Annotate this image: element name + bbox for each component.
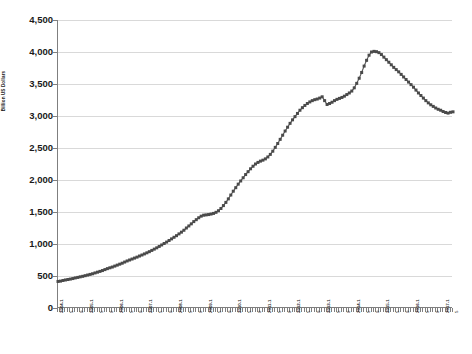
x-tick-label: 2011-1 <box>267 300 272 313</box>
data-point-marker <box>279 138 282 141</box>
y-tick-label: 2,500 <box>3 143 53 153</box>
x-tick-mark <box>205 308 206 312</box>
data-point-marker <box>422 97 425 100</box>
x-tick-label: 2016-1 <box>415 299 420 313</box>
data-point-marker <box>365 59 368 62</box>
x-tick-mark <box>274 308 275 312</box>
data-point-marker <box>402 75 405 78</box>
x-tick-label: 2013-1 <box>326 299 331 313</box>
x-tick-mark <box>166 308 167 312</box>
y-tick-label: 500 <box>3 271 53 281</box>
x-tick-label: 2010-1 <box>237 299 242 313</box>
x-tick-label: 5 <box>306 311 311 313</box>
x-tick-mark <box>264 308 265 312</box>
x-tick-mark <box>232 308 233 312</box>
x-tick-mark <box>77 308 78 312</box>
data-point-marker <box>244 173 247 176</box>
y-tick-label: 1,000 <box>3 239 53 249</box>
x-tick-mark <box>235 308 236 312</box>
x-tick-label: 2007-1 <box>148 299 153 313</box>
data-point-marker <box>242 176 245 179</box>
x-axis-ticks: 2004-1592005-1592006-1592007-1592008-159… <box>57 308 453 354</box>
data-series <box>58 20 453 308</box>
x-tick-mark <box>304 308 305 312</box>
x-tick-mark <box>104 308 105 312</box>
x-tick-mark <box>64 308 65 312</box>
x-tick-label: 5 <box>69 311 74 313</box>
x-tick-mark <box>136 308 137 312</box>
data-point-marker <box>234 186 237 189</box>
x-tick-label: 9 <box>257 311 262 313</box>
data-point-marker <box>247 170 250 173</box>
x-tick-mark <box>176 308 177 312</box>
x-tick-label: 9 <box>198 311 203 313</box>
x-tick-mark <box>410 308 411 312</box>
data-point-marker <box>368 54 371 57</box>
x-tick-mark <box>363 308 364 312</box>
plot-area <box>57 20 452 308</box>
x-tick-label: 2014-1 <box>356 299 361 313</box>
y-tick-label: 3,000 <box>3 111 53 121</box>
x-tick-mark <box>380 308 381 312</box>
x-tick-mark <box>400 308 401 312</box>
x-tick-mark <box>255 308 256 312</box>
data-point-marker <box>363 65 366 68</box>
data-point-marker <box>276 142 279 145</box>
x-tick-label: 2004-1 <box>59 299 64 313</box>
x-tick-mark <box>57 308 58 312</box>
x-tick-mark <box>143 308 144 312</box>
data-point-marker <box>229 194 232 197</box>
data-point-marker <box>380 53 383 56</box>
data-point-marker <box>232 190 235 193</box>
x-tick-label: 2008-1 <box>178 299 183 313</box>
y-axis-ticks: 05001,0001,5002,0002,5003,0003,5004,0004… <box>0 0 53 354</box>
y-tick-label: 4,500 <box>3 15 53 25</box>
x-tick-label: 5 <box>425 311 430 313</box>
x-tick-mark <box>94 308 95 312</box>
x-tick-label: 9 <box>79 311 84 313</box>
x-tick-mark <box>67 308 68 312</box>
x-tick-label: 9 <box>435 311 440 313</box>
data-point-marker <box>452 110 455 113</box>
x-tick-mark <box>442 308 443 312</box>
x-tick-mark <box>311 308 312 312</box>
x-tick-mark <box>183 308 184 312</box>
x-tick-label: 2015-1 <box>385 299 390 313</box>
data-point-marker <box>289 122 292 125</box>
x-tick-label: 2005-1 <box>89 299 94 313</box>
x-tick-label: 2017-1 <box>445 299 450 313</box>
chart-container: Billion US Dollars 05001,0001,5002,0002,… <box>0 0 472 354</box>
x-tick-label: 2006-1 <box>119 299 124 313</box>
data-point-marker <box>390 63 393 66</box>
x-tick-mark <box>353 308 354 312</box>
x-tick-label: 5 <box>188 311 193 313</box>
x-tick-mark <box>242 308 243 312</box>
y-tick-label: 3,500 <box>3 79 53 89</box>
x-tick-mark <box>331 308 332 312</box>
x-tick-mark <box>126 308 127 312</box>
data-point-marker <box>284 130 287 133</box>
x-tick-mark <box>245 308 246 312</box>
x-tick-mark <box>87 308 88 312</box>
data-point-marker <box>286 126 289 129</box>
data-point-marker <box>227 197 230 200</box>
data-point-marker <box>298 109 301 112</box>
x-tick-mark <box>294 308 295 312</box>
data-point-marker <box>358 77 361 80</box>
data-point-marker <box>321 95 324 98</box>
data-point-marker <box>296 112 299 115</box>
data-point-marker <box>382 56 385 59</box>
x-tick-mark <box>222 308 223 312</box>
x-tick-mark <box>195 308 196 312</box>
x-tick-mark <box>74 308 75 312</box>
x-tick-mark <box>403 308 404 312</box>
y-tick-label: 0 <box>3 303 53 313</box>
data-point-marker <box>219 207 222 210</box>
x-tick-mark <box>301 308 302 312</box>
data-point-marker <box>353 86 356 89</box>
x-tick-label: 5 <box>277 311 282 313</box>
x-tick-mark <box>341 308 342 312</box>
x-tick-mark <box>153 308 154 312</box>
x-tick-mark <box>84 308 85 312</box>
x-tick-mark <box>334 308 335 312</box>
